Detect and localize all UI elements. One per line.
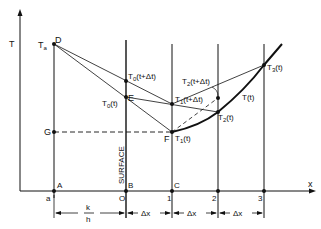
- t-axis-arrow-icon: [18, 9, 23, 16]
- point-3: [262, 189, 266, 193]
- ta-label: Ta: [38, 40, 48, 51]
- t2-t-label: T2(t): [218, 113, 234, 123]
- t1-t-label: T1(t): [175, 134, 191, 144]
- surface-label: SURFACE: [117, 146, 126, 184]
- a-label: A: [57, 181, 63, 190]
- t-axis-label: T: [9, 39, 15, 49]
- tick-3: 3: [258, 194, 263, 203]
- node-points: [52, 42, 266, 193]
- c-label: C: [174, 181, 180, 190]
- t3-t-label: T3(t): [267, 63, 283, 73]
- t0-t-plus-label: T0(t+Δt): [128, 72, 156, 82]
- curve-label: T(t): [242, 93, 255, 102]
- heat-conduction-diagram: T x Ta D E F G A B C T0(t+Δt) T0(t) T1(t…: [0, 0, 321, 229]
- point-2: [216, 189, 220, 193]
- point-a: [52, 189, 56, 193]
- dx-label-1: Δx: [141, 209, 150, 218]
- point-t3: [262, 63, 266, 67]
- dx-label-2: Δx: [187, 209, 196, 218]
- k-label: k: [86, 203, 91, 212]
- tick-o: O: [119, 194, 125, 203]
- b-label: B: [128, 181, 133, 190]
- dx-label-3: Δx: [233, 209, 242, 218]
- tick-2: 2: [212, 194, 217, 203]
- t0-t-label: T0(t): [102, 99, 118, 109]
- f-label: F: [164, 134, 170, 144]
- d-label: D: [55, 35, 62, 45]
- g-label: G: [44, 127, 51, 137]
- tick-1: 1: [167, 194, 172, 203]
- point-f: [170, 130, 174, 134]
- point-t2-t-plus: [216, 96, 220, 100]
- x-axis-label: x: [308, 179, 313, 189]
- t2-t-plus-label: T2(t+Δt): [182, 77, 210, 87]
- tick-a: a: [46, 194, 51, 203]
- t1-t-plus-label: T1(t+Δt): [175, 95, 203, 105]
- x-axis-arrow-icon: [309, 189, 316, 194]
- t2-plus-leader: [212, 87, 218, 96]
- point-g: [52, 130, 56, 134]
- e-label: E: [128, 93, 134, 103]
- h-label: h: [86, 215, 90, 224]
- point-t1-t-plus: [170, 102, 174, 106]
